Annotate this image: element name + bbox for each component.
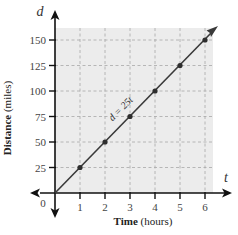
x-variable-label: t	[224, 170, 229, 185]
x-tick-label: 3	[127, 201, 133, 213]
x-axis-left-arrow-icon	[30, 189, 40, 198]
data-point	[77, 165, 82, 170]
y-variable-label: d	[37, 4, 45, 19]
data-point	[202, 37, 207, 42]
x-axis-title-text: Time (hours)	[114, 215, 173, 228]
y-tick-label: 50	[35, 136, 47, 148]
x-tick-label: 4	[152, 201, 158, 213]
y-tick-label: 25	[35, 162, 47, 174]
x-tick-label: 1	[77, 201, 83, 213]
y-tick-label: 125	[30, 60, 47, 72]
chart-canvas: 1234562550751001251500 dtd = 25tTime (ho…	[0, 0, 238, 235]
x-tick-label: 6	[202, 201, 208, 213]
y-tick-label: 75	[35, 111, 47, 123]
data-point	[102, 139, 107, 144]
data-point	[152, 88, 157, 93]
x-tick-label: 5	[177, 201, 183, 213]
data-point	[177, 63, 182, 68]
y-tick-label: 100	[30, 85, 47, 97]
y-axis-title-text: Distance (miles)	[1, 81, 14, 156]
y-tick-label: 150	[30, 34, 47, 46]
origin-label: 0	[40, 197, 46, 209]
data-point	[127, 114, 132, 119]
x-tick-label: 2	[102, 201, 108, 213]
